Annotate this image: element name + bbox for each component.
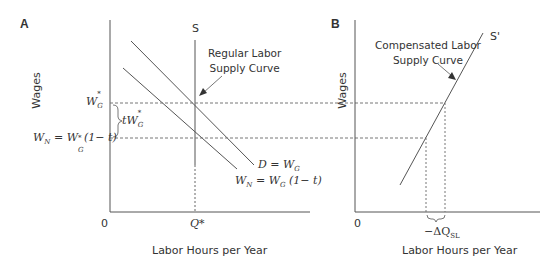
panel-a-annotation-arrow <box>203 76 222 93</box>
panel-a-supply-label: S <box>192 22 199 35</box>
panel-b-origin-label: 0 <box>354 217 361 230</box>
panel-b-annotation: Compensated Labor Supply Curve <box>375 38 481 68</box>
arrowhead-icon <box>199 88 207 96</box>
net-wage-curve-label: WN = WG (1− t) <box>235 174 322 189</box>
delta-q-brace <box>427 215 445 222</box>
panel-b-x-axis-label: Labor Hours per Year <box>402 244 517 257</box>
delta-q-label: −ΔQSL <box>424 225 460 240</box>
wn-equation-label: WN = W*G(1− t) <box>33 131 117 146</box>
panel-b-label: B <box>331 17 340 31</box>
panel-b-y-axis-label: Wages <box>336 72 349 108</box>
panel-a-net-wage-curve <box>123 68 237 169</box>
panel-a-y-axis-label: Wages <box>30 72 43 108</box>
panel-b-supply-label: S' <box>490 30 500 43</box>
demand-curve-label: D = WG <box>258 158 300 173</box>
tax-wedge-label: tW*G <box>122 114 138 127</box>
panel-a-annotation: Regular Labor Supply Curve <box>208 46 281 76</box>
q-star-label: Q* <box>190 217 205 230</box>
panel-a-origin-label: 0 <box>101 217 108 230</box>
panel-a-label: A <box>20 17 29 31</box>
wg-star-label: W*G <box>86 95 97 108</box>
panel-a-x-axis-label: Labor Hours per Year <box>152 244 267 257</box>
